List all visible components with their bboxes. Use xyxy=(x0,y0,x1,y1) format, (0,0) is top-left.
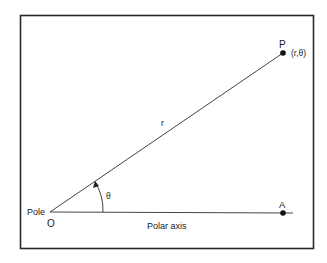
point-p-coords-label: (r,θ) xyxy=(291,48,306,58)
point-a-dot xyxy=(280,210,286,216)
angle-label: θ xyxy=(106,191,111,201)
polar-axis-line xyxy=(50,212,293,213)
point-a-label: A xyxy=(279,199,286,210)
point-p-dot xyxy=(280,50,286,56)
radius-label: r xyxy=(161,118,164,128)
origin-label: O xyxy=(47,218,55,229)
point-p-label: P xyxy=(279,39,286,50)
polar-axis-label: Polar axis xyxy=(147,221,187,231)
polar-coordinates-diagram: P (r,θ) r θ Pole O A Polar axis xyxy=(0,0,327,263)
radius-line xyxy=(50,53,283,212)
pole-label: Pole xyxy=(27,207,45,217)
